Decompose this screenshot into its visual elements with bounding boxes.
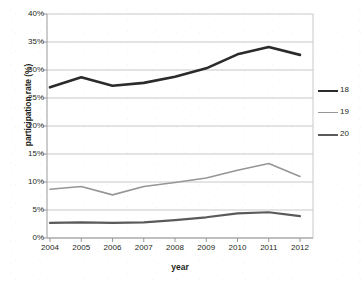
chart-legend: 181920: [318, 84, 364, 150]
chart-figure: 0%5%10%15%20%25%30%35%40% 20042005200620…: [0, 0, 364, 281]
x-tick-label: 2012: [283, 243, 317, 252]
data-series-group: [50, 47, 300, 223]
y-axis-title: participation rate (%): [23, 25, 33, 185]
x-tick-label: 2010: [221, 243, 255, 252]
y-tick-label: 0%: [16, 234, 44, 242]
legend-label: 19: [340, 107, 349, 117]
legend-label: 20: [340, 129, 349, 139]
x-tick-label: 2011: [252, 243, 286, 252]
legend-item-20[interactable]: 20: [318, 128, 364, 150]
x-tick-label: 2007: [127, 243, 161, 252]
series-line-20: [50, 212, 300, 223]
legend-swatch-20: [318, 134, 338, 136]
y-tick-label: 5%: [16, 206, 44, 214]
legend-label: 18: [340, 85, 349, 95]
series-line-19: [50, 164, 300, 195]
x-tick-label: 2006: [96, 243, 130, 252]
legend-item-19[interactable]: 19: [318, 106, 364, 128]
x-axis-tick-labels: 200420052006200720082009201020112012: [0, 243, 364, 259]
x-tick-label: 2004: [33, 243, 67, 252]
legend-swatch-18: [318, 90, 338, 92]
x-tick-label: 2009: [189, 243, 223, 252]
x-axis-ticks: [50, 238, 300, 242]
line-chart-plot: [0, 0, 364, 281]
x-axis-title: year: [47, 262, 313, 272]
x-tick-label: 2008: [158, 243, 192, 252]
y-tick-label: 40%: [16, 10, 44, 18]
series-line-18: [50, 47, 300, 87]
legend-swatch-19: [318, 112, 338, 113]
legend-item-18[interactable]: 18: [318, 84, 364, 106]
x-tick-label: 2005: [64, 243, 98, 252]
